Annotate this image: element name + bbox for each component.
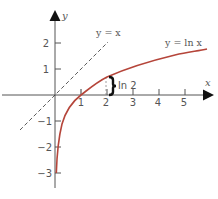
brace-label-ln2: ln 2 [118,80,137,91]
x-tick-label-2: 2 [103,97,109,108]
y-tick-label-1: 1 [43,64,49,75]
y-tick-label-neg3: −3 [37,168,52,179]
x-tick-label-4: 4 [155,97,161,108]
y-tick-label-neg1: −1 [37,116,52,127]
ln-curve-label: y = ln x [164,37,203,48]
x-axis-arrow-icon [203,90,214,101]
x-tick-label-3: 3 [130,97,136,108]
brace-icon [109,77,116,95]
ln-graph-figure: 1 2 3 4 5 2 1 −1 −2 −3 y x y = x y = ln … [0,0,218,199]
ln-curve [56,49,207,173]
identity-line-label: y = x [95,27,121,38]
y-axis-label: y [61,10,68,21]
plot-svg: 1 2 3 4 5 2 1 −1 −2 −3 y x y = x y = ln … [0,0,218,199]
x-axis-label: x [205,77,211,88]
y-tick-label-neg2: −2 [37,142,52,153]
y-tick-label-2: 2 [43,38,49,49]
x-tick-label-1: 1 [78,97,84,108]
y-axis-arrow-icon [50,10,61,21]
x-tick-label-5: 5 [181,97,187,108]
